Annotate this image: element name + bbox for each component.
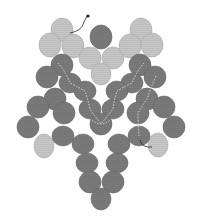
bead-texture xyxy=(91,63,111,85)
bead-texture xyxy=(90,25,112,49)
bead-texture xyxy=(91,188,111,210)
bead-texture xyxy=(72,134,94,154)
bead-texture xyxy=(106,153,128,173)
bead-texture xyxy=(163,116,185,138)
bead-texture xyxy=(144,66,166,88)
bead-texture xyxy=(27,96,49,118)
bead-texture xyxy=(39,33,61,57)
bead-texture xyxy=(52,126,74,146)
beads-layer xyxy=(17,18,185,210)
beadwork-diagram xyxy=(0,0,202,224)
bead-texture xyxy=(148,133,168,157)
bead-texture xyxy=(76,153,98,173)
bead-pattern-canvas xyxy=(0,0,202,224)
bead-texture xyxy=(17,116,39,138)
bead-texture xyxy=(53,102,75,124)
bead-texture xyxy=(34,134,54,158)
bead-texture xyxy=(108,134,130,154)
bead-texture xyxy=(153,96,175,118)
bead-texture xyxy=(141,33,163,57)
bead-texture xyxy=(36,66,58,88)
thread-knot-icon xyxy=(86,14,89,17)
